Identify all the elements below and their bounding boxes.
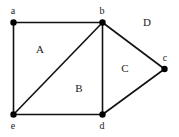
edge-b-c	[103, 23, 165, 70]
vertex-a	[10, 19, 16, 25]
edge-b-e	[14, 23, 103, 115]
vertex-label-e: e	[11, 120, 16, 131]
vertex-b	[99, 19, 105, 25]
face-label-B: B	[75, 82, 82, 94]
vertex-e	[10, 111, 16, 117]
vertex-label-d: d	[100, 120, 105, 131]
vertex-label-a: a	[11, 5, 16, 16]
face-labels: ABCD	[36, 16, 151, 94]
planar-graph-diagram: abcde ABCD	[0, 0, 179, 137]
edge-c-d	[103, 69, 165, 115]
vertex-c	[161, 66, 167, 72]
face-label-A: A	[36, 43, 44, 55]
vertex-label-b: b	[100, 5, 105, 16]
face-label-C: C	[121, 62, 128, 74]
edges	[14, 23, 165, 115]
vertex-d	[99, 111, 105, 117]
vertex-label-c: c	[163, 52, 168, 63]
face-label-D: D	[143, 16, 151, 28]
vertices	[10, 19, 167, 117]
